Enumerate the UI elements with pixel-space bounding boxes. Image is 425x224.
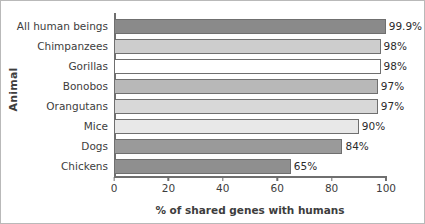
y-axis-tick-label: Gorillas (21, 56, 112, 76)
bar-row: 97% (114, 96, 386, 116)
bar (114, 59, 381, 74)
x-axis-tick-text: 80 (325, 182, 338, 194)
x-axis-tick-text: 0 (111, 182, 118, 194)
bar-value-label: 65% (291, 160, 317, 172)
bar-value-label: 90% (359, 120, 385, 132)
bar-row: 65% (114, 156, 386, 176)
bar (114, 19, 386, 34)
x-axis-tick-text: 100 (376, 182, 396, 194)
bar (114, 99, 378, 114)
x-axis-tick-text: 20 (162, 182, 175, 194)
x-axis-tick: 40 (216, 177, 229, 194)
x-axis-tick: 100 (376, 177, 396, 194)
x-axis-tick-text: 40 (216, 182, 229, 194)
y-axis-tick-label: Dogs (21, 136, 112, 156)
x-axis-tick-text: 60 (271, 182, 284, 194)
bar-value-label: 98% (381, 60, 407, 72)
x-axis-tick: 20 (162, 177, 175, 194)
bar-row: 98% (114, 56, 386, 76)
y-axis-tick-labels: All human beingsChimpanzeesGorillasBonob… (21, 16, 112, 176)
bar-value-label: 84% (342, 140, 368, 152)
y-axis-tick-label: Mice (21, 116, 112, 136)
x-axis-tick-mark (276, 177, 278, 181)
x-axis-tick-mark (222, 177, 224, 181)
bar-row: 99.9% (114, 16, 386, 36)
bar-row: 97% (114, 76, 386, 96)
bar-series: 99.9%98%98%97%97%90%84%65% (114, 16, 386, 176)
y-axis-tick-label: All human beings (21, 16, 112, 36)
x-axis-tick-mark (385, 177, 387, 181)
y-axis-tick-label: Chimpanzees (21, 36, 112, 56)
bar (114, 39, 381, 54)
x-axis-tick-mark (168, 177, 170, 181)
x-axis-tick-labels: 020406080100 (114, 177, 386, 193)
bar-value-label: 99.9% (386, 20, 422, 32)
y-axis-title-text: Animal (8, 67, 21, 111)
x-axis-tick-mark (113, 177, 115, 181)
bar (114, 139, 342, 154)
x-axis-title: % of shared genes with humans (114, 204, 386, 216)
bar (114, 79, 378, 94)
bar (114, 119, 359, 134)
x-axis-tick-mark (331, 177, 333, 181)
bar (114, 159, 291, 174)
bar-row: 84% (114, 136, 386, 156)
plot-area: 99.9%98%98%97%97%90%84%65% (114, 16, 386, 176)
bar-row: 98% (114, 36, 386, 56)
bar-value-label: 97% (378, 100, 404, 112)
x-axis-tick: 80 (325, 177, 338, 194)
bar-value-label: 97% (378, 80, 404, 92)
y-axis-tick-label: Orangutans (21, 96, 112, 116)
bar-value-label: 98% (381, 40, 407, 52)
x-axis-tick: 0 (111, 177, 118, 194)
y-axis-tick-label: Bonobos (21, 76, 112, 96)
y-axis-tick-label: Chickens (21, 156, 112, 176)
bar-row: 90% (114, 116, 386, 136)
bar-chart: Animal All human beingsChimpanzeesGorill… (0, 0, 425, 224)
x-axis-tick: 60 (271, 177, 284, 194)
